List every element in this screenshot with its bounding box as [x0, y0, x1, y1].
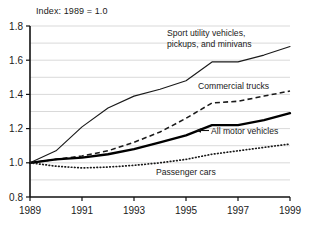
x-tick-label-1989: 1989 — [19, 205, 42, 216]
annotation-passenger-cars: Passenger cars — [156, 167, 216, 177]
gridlines — [30, 26, 290, 180]
x-tick-label-1993: 1993 — [123, 205, 146, 216]
y-tick-label-0.8: 0.8 — [9, 192, 23, 203]
y-tick-label-1.4: 1.4 — [9, 89, 23, 100]
annotation-all-motor-vehicles: All motor vehicles — [211, 126, 278, 136]
x-tick-label-1991: 1991 — [71, 205, 94, 216]
series-line-all-motor-vehicles — [30, 113, 290, 163]
series-group — [30, 47, 290, 168]
y-tick-label-1.0: 1.0 — [9, 157, 23, 168]
annotation-suv-line1: Sport utility vehicles, — [167, 28, 245, 38]
x-tick-label-1999: 1999 — [279, 205, 302, 216]
annotation-commercial-trucks: Commercial trucks — [198, 81, 269, 91]
y-tick-label-1.6: 1.6 — [9, 55, 23, 66]
x-tick-label-1997: 1997 — [227, 205, 250, 216]
series-line-passenger-cars — [30, 144, 290, 168]
annotation-suv-line2: pickups, and minivans — [167, 39, 252, 49]
y-tick-label-1.8: 1.8 — [9, 21, 23, 32]
chart-figure: Index: 1989 = 1.0 — [0, 0, 309, 233]
x-tick-label-1995: 1995 — [175, 205, 198, 216]
line-chart-canvas: 1.8 1.6 1.4 1.2 1.0 0.8 1989 1991 1993 1… — [0, 0, 309, 233]
y-tick-label-1.2: 1.2 — [9, 123, 23, 134]
